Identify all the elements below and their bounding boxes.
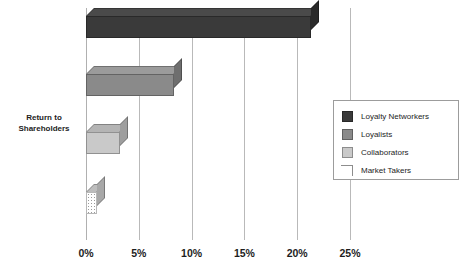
bar-top-face (86, 8, 319, 16)
y-axis-label-line-1: Return to (6, 112, 82, 123)
bar-side-face (174, 58, 182, 88)
bar-top-face (86, 66, 182, 74)
legend-swatch-icon (342, 111, 353, 122)
legend-item[interactable]: Loyalists (342, 125, 458, 143)
bar-chart: Return to Shareholders 0%5%10%15%20%25% … (0, 0, 471, 276)
x-tick-label-20: 20% (287, 247, 308, 259)
gridline-15 (244, 8, 245, 240)
bar-front-face (86, 74, 174, 96)
legend-swatch-icon (342, 129, 353, 140)
x-tick-label-5: 5% (131, 247, 146, 259)
x-tick-label-25: 25% (339, 247, 360, 259)
x-axis-tick-labels: 0%5%10%15%20%25% (0, 247, 471, 267)
gridline-10 (192, 8, 193, 240)
legend-item[interactable]: Collaborators (342, 143, 458, 161)
legend-label: Collaborators (361, 148, 409, 157)
bar-front-face (86, 132, 120, 154)
legend-label: Loyalists (361, 130, 392, 139)
bar-collaborators (86, 124, 128, 154)
gridline-5 (139, 8, 140, 240)
legend-item[interactable]: Loyalty Networkers (342, 107, 458, 125)
bar-front-face (86, 192, 97, 214)
bar-front-face (86, 16, 311, 38)
legend-swatch-icon (342, 147, 353, 158)
y-axis-label-line-2: Shareholders (6, 123, 82, 134)
bar-side-face (311, 0, 319, 30)
y-axis-label: Return to Shareholders (6, 112, 82, 134)
bar-side-face (97, 176, 105, 206)
gridline-20 (297, 8, 298, 240)
x-tick-label-10: 10% (181, 247, 202, 259)
chart-legend: Loyalty NetworkersLoyalistsCollaborators… (333, 100, 459, 180)
bar-market-takers (86, 184, 105, 214)
bar-side-face (120, 116, 128, 146)
x-tick-label-0: 0% (78, 247, 93, 259)
legend-item[interactable]: Market Takers (342, 161, 458, 179)
legend-label: Loyalty Networkers (361, 112, 429, 121)
legend-swatch-icon (342, 165, 353, 176)
bar-loyalists (86, 66, 182, 96)
bar-loyalty-networkers (86, 8, 319, 38)
x-tick-label-15: 15% (234, 247, 255, 259)
legend-label: Market Takers (361, 166, 411, 175)
